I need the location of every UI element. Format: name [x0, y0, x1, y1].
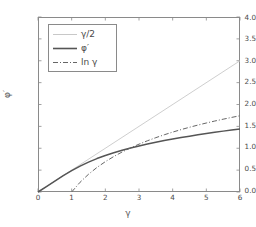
legend-entry-gamma-over-2: γ/2 [53, 27, 115, 41]
legend-swatch-solid-light [53, 33, 77, 36]
legend-label: φ′ [81, 41, 89, 55]
legend: γ/2 φ′ ln γ [48, 24, 117, 72]
y-axis-label: φ′ [2, 90, 12, 98]
legend-swatch-solid-dark [53, 47, 77, 50]
x-tick-label: 4 [164, 194, 182, 201]
x-tick-label: 2 [96, 194, 114, 201]
legend-label: γ/2 [81, 27, 95, 41]
legend-entry-phi-prime: φ′ [53, 41, 115, 55]
x-tick-label: 3 [130, 194, 148, 201]
x-tick-label: 0 [29, 194, 47, 201]
x-axis-label: γ [0, 208, 256, 218]
legend-swatch-dashdot [53, 61, 77, 64]
legend-label: ln γ [81, 55, 97, 69]
x-tick-label: 1 [63, 194, 81, 201]
x-tick-label: 5 [197, 194, 215, 201]
legend-entry-ln-gamma: ln γ [53, 55, 115, 69]
figure: φ′ 4.0 3.5 3.0 2.5 2.0 1.5 1.0 0.5 0.0 [0, 0, 256, 227]
x-tick-label: 6 [231, 194, 249, 201]
